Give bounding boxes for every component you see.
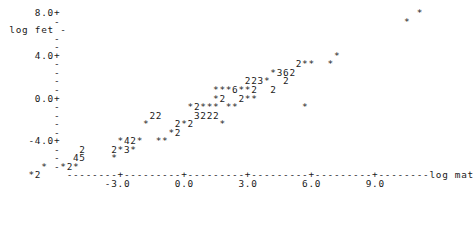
plot-data-row: * (3, 17, 410, 26)
x-axis-tick-labels: -3.0 0.0 3.0 6.0 9.0 (3, 179, 385, 188)
